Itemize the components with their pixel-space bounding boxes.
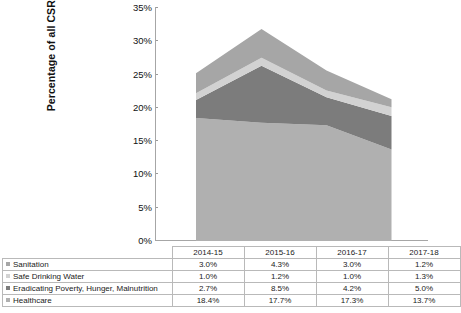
table-row: Healthcare18.4%17.7%17.3%13.7%: [3, 295, 461, 307]
table-cell-value: 1.2%: [244, 271, 316, 283]
table-cell-value: 1.3%: [388, 271, 460, 283]
table-cell-value: 4.3%: [244, 259, 316, 271]
area-series-group: [156, 7, 428, 241]
legend-swatch-icon: [6, 274, 10, 278]
table-cell-value: 5.0%: [388, 283, 460, 295]
table-row-label: Safe Drinking Water: [3, 271, 173, 283]
table-row: Sanitation3.0%4.3%3.0%1.2%: [3, 259, 461, 271]
table-header-corner: [3, 247, 173, 259]
y-axis-tick-labels: 0%5%10%15%20%25%30%35%: [116, 0, 152, 241]
legend-swatch-icon: [6, 286, 10, 290]
table-cell-value: 1.0%: [316, 271, 388, 283]
y-axis-tick-label: 25%: [118, 69, 152, 78]
legend-label: Healthcare: [13, 296, 52, 305]
table-cell-value: 2.7%: [172, 283, 244, 295]
y-axis-tick-label: 15%: [118, 136, 152, 145]
legend-label: Safe Drinking Water: [13, 272, 84, 281]
legend-label: Sanitation: [13, 260, 49, 269]
y-axis-tick-label: 0%: [118, 236, 152, 245]
table-header-row: 2014-152015-162016-172017-18: [3, 247, 461, 259]
table-body: Sanitation3.0%4.3%3.0%1.2%Safe Drinking …: [3, 259, 461, 307]
table-cell-value: 18.4%: [172, 295, 244, 307]
y-axis-tick-label: 30%: [118, 36, 152, 45]
data-table: 2014-152015-162016-172017-18 Sanitation3…: [2, 246, 461, 307]
y-axis-tick-label: 35%: [118, 3, 152, 12]
y-axis-title: Percentage of all CSR Investments: [44, 0, 58, 132]
table-row: Safe Drinking Water1.0%1.2%1.0%1.3%: [3, 271, 461, 283]
table-column-header: 2017-18: [388, 247, 460, 259]
y-axis-tick-label: 5%: [118, 202, 152, 211]
table-cell-value: 4.2%: [316, 283, 388, 295]
table-cell-value: 3.0%: [172, 259, 244, 271]
table-cell-value: 1.2%: [388, 259, 460, 271]
table-column-header: 2014-15: [172, 247, 244, 259]
table-cell-value: 8.5%: [244, 283, 316, 295]
table-row: Eradicating Poverty, Hunger, Malnutritio…: [3, 283, 461, 295]
legend-swatch-icon: [6, 298, 10, 302]
table-cell-value: 17.7%: [244, 295, 316, 307]
table-cell-value: 3.0%: [316, 259, 388, 271]
legend-swatch-icon: [6, 262, 10, 266]
legend-label: Eradicating Poverty, Hunger, Malnutritio…: [13, 284, 158, 293]
y-axis-tick-label: 10%: [118, 169, 152, 178]
table-cell-value: 17.3%: [316, 295, 388, 307]
table-row-label: Eradicating Poverty, Hunger, Malnutritio…: [3, 283, 173, 295]
table-column-header: 2015-16: [244, 247, 316, 259]
table-cell-value: 13.7%: [388, 295, 460, 307]
table-cell-value: 1.0%: [172, 271, 244, 283]
table-row-label: Sanitation: [3, 259, 173, 271]
plot-area: [156, 7, 428, 241]
table-row-label: Healthcare: [3, 295, 173, 307]
y-axis-tick-label: 20%: [118, 102, 152, 111]
table-column-header: 2016-17: [316, 247, 388, 259]
